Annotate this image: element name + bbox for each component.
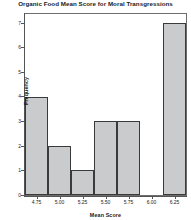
chart-title: Organic Food Mean Score for Moral Transg… bbox=[0, 0, 191, 8]
y-tick-1 bbox=[21, 170, 25, 171]
y-tick-label-3: 3 bbox=[18, 119, 21, 124]
bar-5.50 bbox=[94, 121, 117, 195]
x-axis-title: Mean Score bbox=[24, 212, 187, 218]
bar-6.25 bbox=[163, 23, 186, 195]
y-axis: Frequency 01234567 bbox=[24, 13, 25, 196]
y-tick-label-1: 1 bbox=[18, 168, 21, 173]
x-tick-label-6.00: 6.00 bbox=[147, 200, 157, 205]
y-tick-3 bbox=[21, 121, 25, 122]
y-tick-label-2: 2 bbox=[18, 143, 21, 148]
bar-series bbox=[25, 14, 186, 195]
bar-5.75 bbox=[117, 121, 140, 195]
y-tick-label-4: 4 bbox=[18, 94, 21, 99]
x-tick-label-5.00: 5.00 bbox=[55, 200, 65, 205]
bar-5.25 bbox=[71, 170, 94, 195]
y-tick-7 bbox=[21, 23, 25, 24]
x-tick-label-5.50: 5.50 bbox=[101, 200, 111, 205]
y-tick-6 bbox=[21, 47, 25, 48]
x-tick-label-4.75: 4.75 bbox=[32, 200, 42, 205]
y-tick-4 bbox=[21, 96, 25, 97]
bar-5.00 bbox=[48, 146, 71, 195]
x-axis: 4.755.005.255.505.756.006.25 bbox=[24, 196, 187, 197]
x-tick-label-5.75: 5.75 bbox=[124, 200, 134, 205]
x-tick-label-6.25: 6.25 bbox=[170, 200, 180, 205]
y-axis-title: Frequency bbox=[23, 77, 29, 105]
plot-area bbox=[25, 14, 186, 195]
histogram-figure: Organic Food Mean Score for Moral Transg… bbox=[0, 0, 191, 220]
y-tick-2 bbox=[21, 146, 25, 147]
bar-4.75 bbox=[25, 97, 48, 196]
y-tick-label-6: 6 bbox=[18, 45, 21, 50]
x-tick-label-5.25: 5.25 bbox=[78, 200, 88, 205]
y-tick-label-0: 0 bbox=[18, 193, 21, 198]
y-tick-label-7: 7 bbox=[18, 20, 21, 25]
y-tick-5 bbox=[21, 72, 25, 73]
y-tick-label-5: 5 bbox=[18, 69, 21, 74]
